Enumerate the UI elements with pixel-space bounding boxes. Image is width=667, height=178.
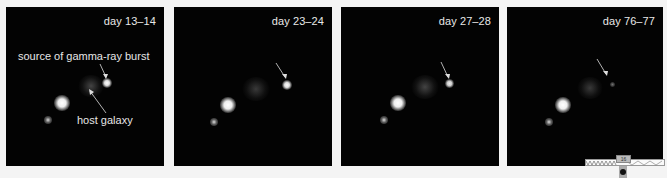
arrow-to-galaxy-icon [6, 7, 164, 166]
slider-value-tag: 16 [616, 155, 631, 163]
arrow-to-burst-icon [174, 7, 332, 166]
panel-day-27-28: day 27–28 [341, 7, 499, 166]
panel-day-13-14: day 13–14 source of gamma-ray burst host… [6, 7, 164, 166]
slider-knob-icon[interactable] [620, 169, 626, 175]
arrow-to-burst-icon [507, 7, 663, 166]
panel-day-76-77: day 76–77 [507, 7, 663, 166]
panel-day-23-24: day 23–24 [174, 7, 332, 166]
ruler-slider-widget[interactable]: 16 [585, 155, 665, 178]
arrow-to-burst-icon [341, 7, 499, 166]
